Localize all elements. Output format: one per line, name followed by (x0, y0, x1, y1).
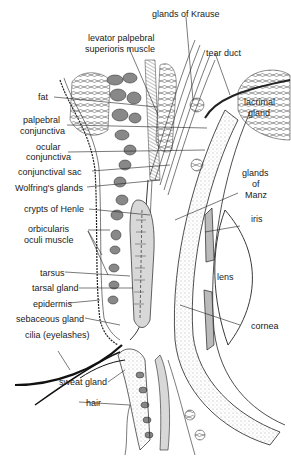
label-wolfrings-glands: Wolfring's glands (15, 183, 83, 193)
label-iris: iris (251, 214, 263, 224)
cilia (15, 345, 125, 405)
label-palpebral-line2: conjunctiva (20, 126, 65, 136)
label-lacrimal-line2: gland (248, 108, 270, 118)
label-hair: hair (86, 398, 101, 408)
label-lens: lens (217, 272, 234, 282)
label-sweat-gland: sweat gland (59, 377, 107, 387)
label-conjunctival-sac: conjunctival sac (18, 167, 82, 177)
label-glands-of-krause: glands of Krause (152, 9, 220, 19)
label-ocular-line1: ocular (36, 142, 61, 152)
label-tarsal-gland: tarsal gland (32, 283, 79, 293)
label-crypts-of-henle: crypts of Henle (24, 204, 84, 214)
label-sebaceous-gland: sebaceous gland (16, 314, 84, 324)
label-ocular-line2: conjunctiva (26, 152, 71, 162)
label-palpebral-line1: palpebral (23, 115, 60, 125)
label-cornea: cornea (251, 321, 279, 331)
label-tear-duct: tear duct (206, 48, 241, 58)
label-levator-muscle-line1: levator palpebral (88, 33, 155, 43)
label-epidermis: epidermis (33, 299, 72, 309)
label-glands-of-manz-line1: glands (242, 168, 269, 178)
label-fat: fat (38, 92, 48, 102)
iris (204, 208, 214, 350)
label-glands-of-manz-line3: Manz (245, 190, 267, 200)
label-glands-of-manz-line2: of (252, 179, 260, 189)
label-orbicularis-line1: orbicularis (28, 224, 69, 234)
label-tarsus: tarsus (40, 268, 65, 278)
tarsus (130, 200, 154, 328)
label-lacrimal-line1: lacrimal (244, 97, 275, 107)
label-levator-muscle-line2: superioris muscle (85, 44, 155, 54)
label-orbicularis-line2: oculi muscle (24, 235, 74, 245)
label-cilia: cilia (eyelashes) (25, 330, 90, 340)
